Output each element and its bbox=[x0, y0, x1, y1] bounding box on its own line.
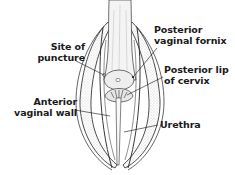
label-anterior-vaginal-wall: Anterior vaginal wall bbox=[8, 97, 77, 118]
label-posterior-lip-of-cervix: Posterior lip of cervix bbox=[164, 65, 229, 86]
retractor-blade bbox=[104, 0, 136, 80]
label-line: puncture bbox=[28, 53, 85, 64]
cervix bbox=[104, 70, 134, 102]
fornix-point bbox=[132, 76, 134, 78]
label-line: Posterior bbox=[154, 25, 227, 36]
label-line: Urethra bbox=[160, 120, 201, 131]
label-line: Anterior bbox=[8, 97, 77, 108]
label-line: of cervix bbox=[164, 76, 229, 87]
label-line: vaginal wall bbox=[8, 108, 77, 119]
label-urethra: Urethra bbox=[160, 120, 201, 131]
label-site-of-puncture: Site of puncture bbox=[28, 42, 85, 63]
urethra-retractor bbox=[116, 98, 121, 165]
label-line: Site of bbox=[28, 42, 85, 53]
label-posterior-vaginal-fornix: Posterior vaginal fornix bbox=[154, 25, 227, 46]
label-line: vaginal fornix bbox=[154, 36, 227, 47]
label-line: Posterior lip bbox=[164, 65, 229, 76]
